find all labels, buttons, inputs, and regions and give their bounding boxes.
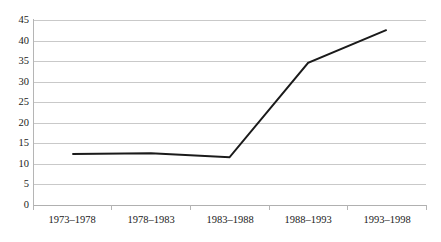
y-tick-label-35: 35 [3, 56, 29, 67]
y-tick-label-40: 40 [3, 35, 29, 46]
gridline-30 [33, 82, 426, 83]
y-tick-label-25: 25 [3, 97, 29, 108]
gridline-40 [33, 41, 426, 42]
gridline-15 [33, 143, 426, 144]
x-tick-label-1983-1988: 1983–1988 [206, 215, 253, 226]
line-chart: 45 40 35 30 25 20 15 10 5 0 1973–1978 19… [0, 0, 441, 242]
x-axis-tick-2 [190, 205, 191, 210]
gridline-35 [33, 61, 426, 62]
gridline-5 [33, 184, 426, 185]
x-axis-tick-4 [347, 205, 348, 210]
plot-area [33, 20, 426, 205]
x-axis-tick-0 [33, 205, 34, 210]
y-axis-labels: 45 40 35 30 25 20 15 10 5 0 [0, 0, 29, 242]
gridline-25 [33, 102, 426, 103]
y-tick-label-10: 10 [3, 159, 29, 170]
gridline-45 [33, 20, 426, 21]
y-tick-label-30: 30 [3, 76, 29, 87]
x-axis-tick-1 [111, 205, 112, 210]
x-tick-label-1988-1993: 1988–1993 [284, 215, 331, 226]
gridline-0 [33, 205, 426, 206]
x-axis-tick-3 [269, 205, 270, 210]
y-tick-label-15: 15 [3, 138, 29, 149]
x-axis-tick-5 [426, 205, 427, 210]
y-tick-label-20: 20 [3, 118, 29, 129]
gridline-20 [33, 123, 426, 124]
y-tick-label-45: 45 [3, 15, 29, 26]
y-tick-label-0: 0 [3, 200, 29, 211]
y-axis-line [33, 19, 34, 206]
x-tick-label-1978-1983: 1978–1983 [127, 215, 174, 226]
gridline-10 [33, 164, 426, 165]
x-tick-label-1993-1998: 1993–1998 [363, 215, 410, 226]
y-tick-label-5: 5 [3, 179, 29, 190]
x-tick-label-1973-1978: 1973–1978 [48, 215, 95, 226]
